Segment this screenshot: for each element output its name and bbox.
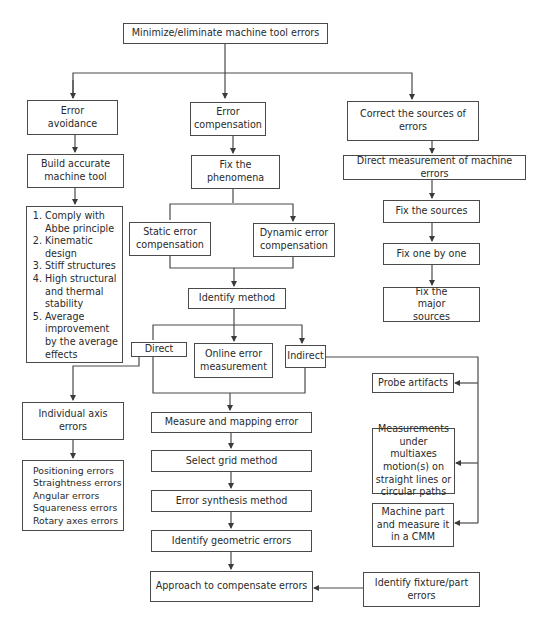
node-select-grid: Select grid method bbox=[151, 450, 312, 472]
list-item: Kinematic design bbox=[45, 235, 118, 260]
node-label: Probe artifacts bbox=[378, 377, 448, 390]
node-multiaxes-measurements: Measurements under multiaxes motion(s) o… bbox=[372, 428, 455, 494]
node-direct-measurement: Direct measurement of machine errors bbox=[343, 155, 526, 180]
node-label: Build accurate machine tool bbox=[36, 158, 115, 183]
node-direct: Direct bbox=[131, 342, 187, 357]
node-label: Error compensation bbox=[194, 106, 262, 131]
list-item: Average improvement by the average effec… bbox=[45, 311, 118, 361]
node-label: Direct measurement of machine errors bbox=[347, 155, 522, 180]
list-item: Squareness errors bbox=[33, 502, 121, 514]
node-measure-mapping: Measure and mapping error bbox=[151, 412, 312, 433]
node-label: Direct bbox=[145, 343, 174, 356]
node-label: Individual axis errors bbox=[35, 408, 111, 433]
node-label: Fix the major sources bbox=[402, 286, 461, 324]
node-label: Fix the sources bbox=[396, 205, 468, 218]
node-dynamic-compensation: Dynamic error compensation bbox=[253, 223, 335, 257]
node-label: Machine part and measure it in a CMM bbox=[375, 506, 451, 544]
node-label: Identify method bbox=[199, 292, 275, 305]
node-label: Measure and mapping error bbox=[165, 416, 298, 429]
node-identify-fixture: Identify fixture/part errors bbox=[363, 572, 480, 607]
node-approach-compensate: Approach to compensate errors bbox=[150, 571, 313, 602]
node-error-compensation: Error compensation bbox=[190, 102, 266, 136]
node-fix-sources: Fix the sources bbox=[383, 200, 480, 223]
avoidance-methods-list: Comply with Abbe principle Kinematic des… bbox=[33, 210, 118, 361]
node-label: Correct the sources of errors bbox=[358, 108, 468, 133]
node-fix-phenomena: Fix the phenomena bbox=[191, 155, 280, 189]
node-label: Error synthesis method bbox=[176, 495, 288, 508]
node-axis-error-types: Positioning errors Straightness errors A… bbox=[22, 460, 124, 531]
node-label: Identify geometric errors bbox=[172, 535, 291, 548]
list-item: High structural and thermal stability bbox=[45, 273, 118, 311]
list-item: Angular errors bbox=[33, 490, 121, 502]
list-item: Stiff structures bbox=[45, 260, 118, 273]
node-build-accurate: Build accurate machine tool bbox=[27, 154, 124, 188]
list-item: Rotary axes errors bbox=[33, 515, 121, 527]
node-identify-geometric: Identify geometric errors bbox=[151, 530, 312, 552]
node-label: Dynamic error compensation bbox=[257, 227, 331, 252]
node-root: Minimize/eliminate machine tool errors bbox=[123, 23, 328, 44]
node-error-avoidance: Error avoidance bbox=[27, 100, 118, 135]
node-online-measurement: Online error measurement bbox=[194, 343, 273, 378]
list-item: Straightness errors bbox=[33, 477, 121, 489]
node-label: Identify fixture/part errors bbox=[374, 577, 469, 602]
node-label: Fix one by one bbox=[397, 248, 467, 261]
node-label: Fix the phenomena bbox=[207, 159, 264, 184]
node-fix-major: Fix the major sources bbox=[383, 287, 480, 322]
node-correct-sources: Correct the sources of errors bbox=[347, 101, 479, 141]
node-label: Select grid method bbox=[186, 455, 278, 468]
node-label: Measurements under multiaxes motion(s) o… bbox=[375, 423, 452, 499]
node-machine-part-cmm: Machine part and measure it in a CMM bbox=[372, 503, 454, 547]
node-label: Minimize/eliminate machine tool errors bbox=[132, 27, 320, 40]
node-label: Approach to compensate errors bbox=[156, 580, 308, 593]
node-individual-axis: Individual axis errors bbox=[22, 402, 124, 440]
node-label: Indirect bbox=[287, 350, 323, 363]
node-label: Online error measurement bbox=[198, 348, 269, 373]
node-identify-method: Identify method bbox=[188, 288, 286, 309]
node-indirect: Indirect bbox=[285, 345, 326, 368]
node-probe-artifacts: Probe artifacts bbox=[372, 373, 454, 393]
node-label: Error avoidance bbox=[42, 105, 103, 130]
node-avoidance-methods: Comply with Abbe principle Kinematic des… bbox=[26, 206, 123, 363]
flowchart-canvas: Minimize/eliminate machine tool errors E… bbox=[0, 0, 547, 624]
node-label: Static error compensation bbox=[133, 226, 207, 251]
node-error-synthesis: Error synthesis method bbox=[151, 490, 312, 512]
node-static-compensation: Static error compensation bbox=[129, 222, 211, 256]
node-fix-one-by-one: Fix one by one bbox=[383, 243, 480, 265]
list-item: Comply with Abbe principle bbox=[45, 210, 118, 235]
list-item: Positioning errors bbox=[33, 465, 121, 477]
